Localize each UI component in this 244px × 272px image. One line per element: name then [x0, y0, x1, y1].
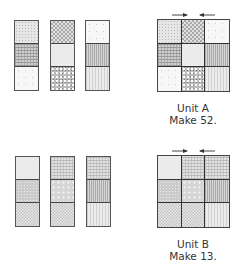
unit-a-strip-2 — [50, 20, 75, 91]
unit-a-instruction: Make 52. — [148, 115, 238, 127]
patch-white — [205, 20, 229, 44]
unit-a-strip-3 — [85, 20, 110, 91]
unit-b-instruction: Make 13. — [148, 251, 238, 263]
patch-fine-weave — [205, 156, 229, 180]
patch-flower — [51, 180, 74, 203]
patch-grain — [158, 180, 182, 204]
unit-b-title: Unit B — [148, 239, 238, 251]
unit-b-strip-2 — [50, 156, 75, 227]
patch-light-stripe — [205, 203, 229, 227]
patch-weave — [158, 44, 182, 68]
patch-light-stripe — [205, 67, 229, 91]
patch-grain — [16, 180, 39, 203]
unit-a-title: Unit A — [148, 103, 238, 115]
patch-fine-check — [16, 203, 39, 226]
patch-white — [158, 67, 182, 91]
patch-flower — [182, 180, 206, 204]
patch-fine-weave — [51, 157, 74, 180]
patch-fine-weave — [182, 156, 206, 180]
patch-vertical-stripe — [86, 44, 109, 67]
patch-light-stripe — [87, 203, 110, 226]
unit-b-strip-1 — [15, 156, 40, 227]
unit-a-block — [157, 19, 230, 92]
patch-dots — [15, 21, 38, 44]
patch-light — [158, 156, 182, 180]
unit-b-strip-3 — [86, 156, 111, 227]
patch-white — [15, 67, 38, 90]
unit-b-pressing-arrows — [172, 148, 212, 154]
patch-light — [16, 157, 39, 180]
patch-check — [51, 21, 74, 44]
patch-dots — [158, 20, 182, 44]
unit-a-pressing-arrows — [172, 12, 212, 18]
patch-weave — [15, 44, 38, 67]
patch-white — [86, 21, 109, 44]
patch-fine-check — [51, 203, 74, 226]
patch-light-stripe — [86, 67, 109, 90]
patch-light — [51, 44, 74, 67]
patch-speckle — [182, 67, 206, 91]
arrow-right-icon — [172, 149, 188, 153]
patch-light — [182, 44, 206, 68]
unit-a-caption: Unit A Make 52. — [148, 103, 238, 126]
patch-fine-check — [182, 203, 206, 227]
patch-fine-weave — [87, 157, 110, 180]
unit-a-strip-1 — [14, 20, 39, 91]
arrow-left-icon — [199, 13, 215, 17]
patch-vertical-stripe — [87, 180, 110, 203]
patch-vertical-stripe — [205, 44, 229, 68]
unit-b-caption: Unit B Make 13. — [148, 239, 238, 262]
unit-b-block — [157, 155, 230, 228]
patch-fine-check — [158, 203, 182, 227]
arrow-left-icon — [199, 149, 215, 153]
arrow-right-icon — [172, 13, 188, 17]
patch-vertical-stripe — [205, 180, 229, 204]
patch-speckle — [51, 67, 74, 90]
patch-check — [182, 20, 206, 44]
